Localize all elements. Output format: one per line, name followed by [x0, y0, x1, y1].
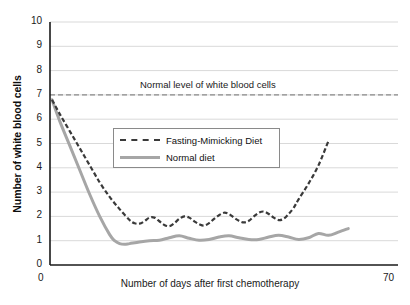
- series-line: [52, 100, 348, 245]
- x-axis-tick-label-end: 70: [383, 272, 394, 283]
- legend-label-fmd: Fasting-Mimicking Diet: [166, 135, 262, 146]
- normal-level-annotation-label: Normal level of white blood cells: [140, 79, 276, 90]
- y-axis-tick-label: 5: [20, 137, 42, 148]
- y-axis-tick-label: 0: [20, 258, 42, 269]
- y-axis-tick-label: 10: [20, 15, 42, 26]
- legend-swatch-solid-icon: [120, 152, 160, 162]
- x-axis-title: Number of days after first chemotherapy: [110, 278, 310, 289]
- legend: Fasting-Mimicking Diet Normal diet: [113, 128, 280, 168]
- y-axis-tick-label: 8: [20, 64, 42, 75]
- chart-container: Number of white blood cells Normal level…: [0, 0, 410, 305]
- y-axis-tick-label: 6: [20, 112, 42, 123]
- data-series-group: [52, 100, 348, 245]
- y-axis-tick-label: 2: [20, 209, 42, 220]
- legend-item-fmd: Fasting-Mimicking Diet: [120, 132, 262, 148]
- legend-swatch-dashed-icon: [120, 135, 160, 145]
- y-axis-tick-label: 4: [20, 161, 42, 172]
- legend-label-normal-diet: Normal diet: [166, 152, 215, 163]
- y-axis-tick-label: 1: [20, 234, 42, 245]
- y-axis-tick-label: 9: [20, 39, 42, 50]
- x-axis-tick-label-start: 0: [38, 272, 44, 283]
- legend-item-normal-diet: Normal diet: [120, 149, 215, 165]
- y-axis-tick-label: 3: [20, 185, 42, 196]
- y-axis-tick-label: 7: [20, 88, 42, 99]
